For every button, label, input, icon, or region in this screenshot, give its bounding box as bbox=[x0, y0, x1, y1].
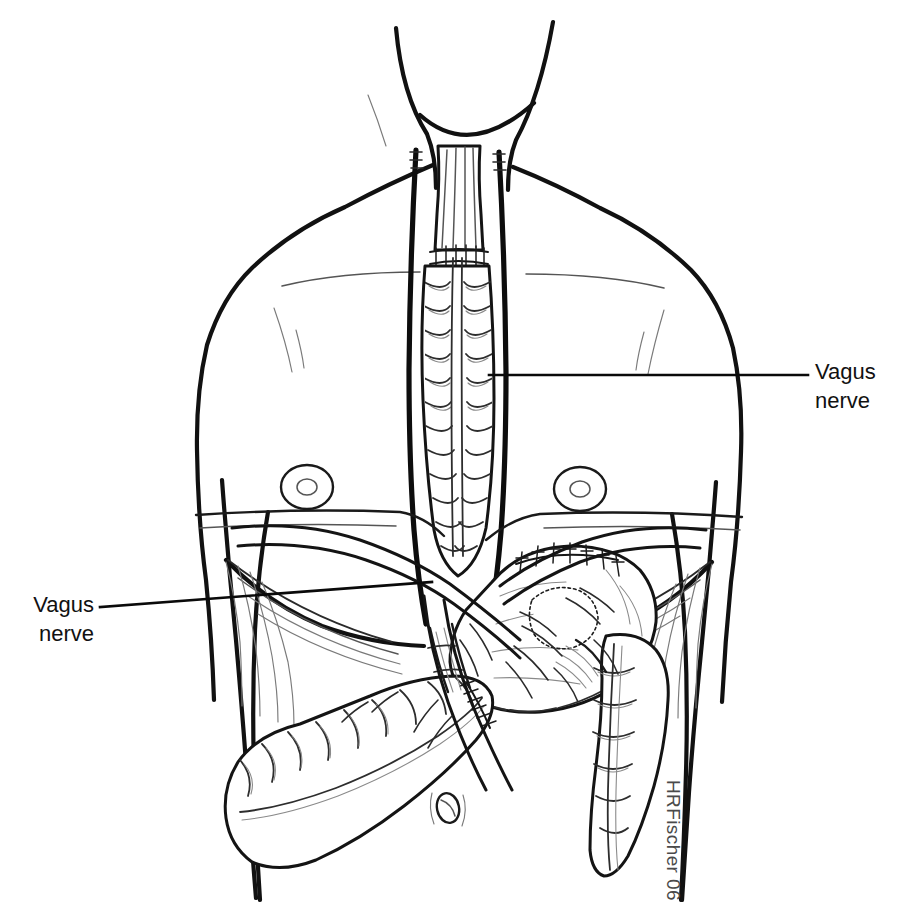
artist-signature: HRFischer 06 bbox=[663, 780, 684, 901]
anatomical-figure: Vagus nerve Vagus nerve HRFischer 06 bbox=[0, 0, 897, 913]
navel bbox=[430, 791, 465, 826]
esophagus-conduit-group bbox=[409, 146, 506, 624]
left-neck-crease bbox=[368, 95, 386, 146]
suprasternal-notch bbox=[420, 103, 534, 135]
right-deltopectoral-groove bbox=[636, 310, 664, 374]
right-clavicle-contour bbox=[526, 274, 664, 288]
label-right-line1: Vagus bbox=[815, 359, 876, 384]
cervical-esophagus bbox=[435, 146, 483, 250]
left-clavicle-contour bbox=[282, 272, 420, 286]
label-right-line2: nerve bbox=[815, 388, 870, 413]
nipple-left bbox=[281, 465, 333, 509]
nipple-right bbox=[554, 467, 606, 511]
illustration-canvas: Vagus nerve Vagus nerve HRFischer 06 bbox=[0, 0, 897, 913]
colon-conduit-retrosternal bbox=[422, 258, 494, 576]
left-deltopectoral-groove bbox=[274, 308, 304, 372]
transverse-colon-body bbox=[225, 676, 492, 868]
colon-group bbox=[225, 624, 668, 876]
label-left-line2: nerve bbox=[39, 621, 94, 646]
diaphragm-left-dome bbox=[196, 511, 444, 536]
label-left-line1: Vagus bbox=[33, 592, 94, 617]
